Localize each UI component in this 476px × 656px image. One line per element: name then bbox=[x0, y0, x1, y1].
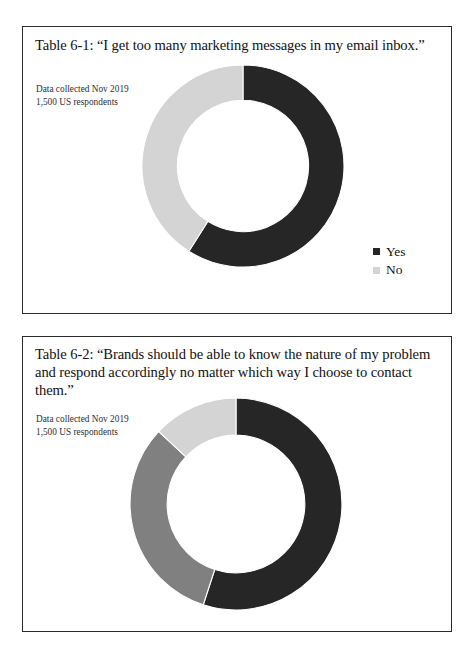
chart-panel-2: Table 6-2: “Brands should be able to kno… bbox=[22, 336, 452, 632]
donut-chart-1 bbox=[141, 64, 345, 268]
legend-swatch-icon bbox=[373, 248, 380, 255]
legend-swatch-icon bbox=[373, 267, 380, 274]
panel-2-note: Data collected Nov 2019 1,500 US respond… bbox=[36, 413, 129, 439]
document-page: Table 6-1: “I get too many marketing mes… bbox=[0, 0, 476, 656]
donut-chart-2 bbox=[129, 397, 343, 611]
donut-chart-2-svg bbox=[129, 397, 343, 611]
donut-slice-no-opinion bbox=[130, 431, 215, 604]
donut-chart-1-svg bbox=[141, 64, 345, 268]
panel-1-note: Data collected Nov 2019 1,500 US respond… bbox=[36, 83, 129, 109]
donut-slice-no bbox=[142, 65, 243, 251]
panel-2-title: Table 6-2: “Brands should be able to kno… bbox=[35, 345, 437, 399]
chart-panel-1: Table 6-1: “I get too many marketing mes… bbox=[22, 26, 452, 314]
legend-chart-1: Yes No bbox=[373, 245, 405, 282]
legend-item[interactable]: No bbox=[373, 263, 405, 276]
legend-item-label: No bbox=[386, 263, 402, 276]
panel-1-title: Table 6-1: “I get too many marketing mes… bbox=[35, 36, 437, 54]
donut-chart-2-slices bbox=[130, 398, 342, 610]
legend-item-label: Yes bbox=[386, 245, 405, 258]
donut-chart-1-slices bbox=[142, 65, 344, 267]
legend-item[interactable]: Yes bbox=[373, 245, 405, 258]
